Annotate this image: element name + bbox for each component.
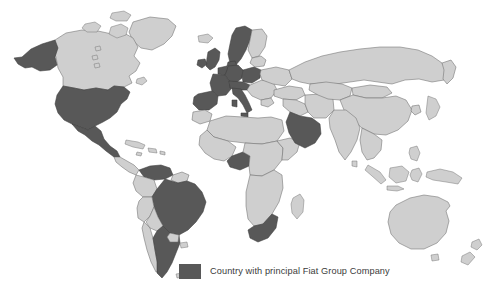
map-legend: Country with principal Fiat Group Compan… [179,264,390,279]
island-sardinia [232,100,237,107]
island-sicily [241,113,248,117]
legend-label: Country with principal Fiat Group Compan… [210,266,390,277]
legend-swatch-highlighted-country [179,264,201,279]
island-hudson-detail-a [95,46,101,51]
island-hispaniola [148,148,157,153]
country-canada [52,30,140,90]
world-map-figure: Country with principal Fiat Group Compan… [0,0,493,302]
world-map-graphic [0,0,493,302]
island-hudson-detail-c [94,63,100,68]
country-uruguay [180,242,188,248]
island-hudson-detail-b [92,55,98,60]
island-sri-lanka [352,161,357,167]
island-jamaica [136,152,142,156]
island-tasmania [431,254,439,261]
